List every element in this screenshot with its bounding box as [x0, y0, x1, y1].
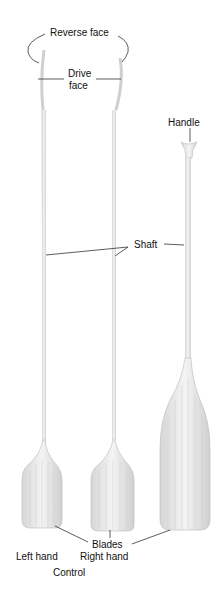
paddle-right-hand: [91, 58, 134, 531]
label-blades: Blades: [92, 539, 123, 550]
label-shaft: Shaft: [134, 239, 157, 250]
label-reverse-face: Reverse face: [50, 27, 109, 38]
paddle-canoe: [160, 142, 210, 530]
label-control: Control: [53, 567, 85, 578]
label-drive-face-line1: Drive: [68, 68, 91, 79]
label-handle: Handle: [168, 117, 200, 128]
label-drive-face-line2: face: [69, 80, 88, 91]
paddle-left-hand: [22, 50, 62, 528]
paddle-diagram: [0, 0, 221, 608]
label-left-hand: Left hand: [16, 551, 58, 562]
label-right-hand: Right hand: [80, 551, 128, 562]
